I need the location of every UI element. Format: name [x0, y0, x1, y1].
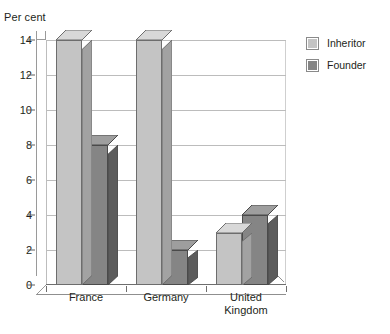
legend: Inheritor Founder: [306, 36, 366, 80]
y-axis-tick-mark: [27, 180, 35, 181]
bar-front-face: [136, 40, 162, 285]
bar-side-face: [108, 145, 118, 285]
bar-side-face: [162, 40, 172, 285]
plot-area: 02468101214: [46, 40, 286, 285]
bar-side-face: [242, 233, 252, 286]
x-axis-label: United Kingdom: [201, 291, 291, 317]
x-axis-label: France: [41, 291, 131, 304]
axis-wall-side: [36, 31, 37, 276]
y-axis-tick-mark: [27, 110, 35, 111]
y-axis-tick-mark: [27, 250, 35, 251]
bar-front-face: [56, 40, 82, 285]
legend-item: Founder: [306, 58, 366, 72]
bar-side-face: [268, 215, 278, 285]
legend-item: Inheritor: [306, 36, 366, 50]
y-axis-title: Per cent: [4, 11, 46, 23]
bar-side-face: [82, 40, 92, 285]
bar-inheritor-france: [56, 40, 82, 285]
y-axis-tick-mark: [27, 40, 35, 41]
legend-label-founder: Founder: [327, 59, 366, 71]
axis-wall-top: [37, 31, 46, 40]
bar-side-face: [188, 250, 198, 285]
legend-swatch-founder: [306, 59, 319, 72]
bar-inheritor-germany: [136, 40, 162, 285]
legend-label-inheritor: Inheritor: [327, 37, 366, 49]
bar-chart: Per cent 02468101214 FranceGermanyUnited…: [0, 0, 390, 334]
y-axis-tick-mark: [27, 215, 35, 216]
bar-top-face: [242, 205, 278, 215]
x-axis-tick-mark: [286, 286, 287, 292]
x-axis-label: Germany: [121, 291, 211, 304]
bar-top-face: [56, 30, 92, 40]
bar-top-face: [136, 30, 172, 40]
bar-top-face: [216, 223, 252, 233]
y-axis-tick-mark: [27, 285, 35, 286]
bar-inheritor-united-kingdom: [216, 233, 242, 286]
bar-front-face: [216, 233, 242, 286]
y-axis-tick-mark: [27, 75, 35, 76]
legend-swatch-inheritor: [306, 37, 319, 50]
x-axis-tick-mark: [46, 286, 47, 292]
y-axis-tick-mark: [27, 145, 35, 146]
